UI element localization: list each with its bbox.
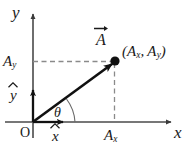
coords-x-subscript: x xyxy=(136,50,140,60)
vector-A-name: A xyxy=(96,31,106,48)
y-axis-label: y xyxy=(12,4,20,21)
vector-A-arrow xyxy=(34,64,113,122)
x-hat-glyph: x xyxy=(52,129,59,144)
vector-diagram-figure: y x O Ay Ax θ A (Ax, Ay) xyxy=(0,0,189,153)
x-axis-label: x xyxy=(174,124,182,141)
component-y-base: A xyxy=(3,53,12,69)
coords-close-paren: ) xyxy=(161,43,166,59)
vector-A-glyph: A xyxy=(96,32,106,48)
component-x-label: Ax xyxy=(104,128,118,143)
unit-vector-x-name: x xyxy=(52,128,59,144)
vector-tip-point xyxy=(110,56,119,65)
angle-theta-label: θ xyxy=(54,106,61,120)
coords-x-base: A xyxy=(127,43,136,59)
vector-A-label: A xyxy=(96,32,106,48)
unit-vector-y-name: y xyxy=(10,87,17,103)
unit-vector-y-label: y xyxy=(10,88,17,103)
coords-y-base: A xyxy=(147,43,156,59)
unit-vector-x-label: x xyxy=(52,129,59,144)
coordinate-pair-label: (Ax, Ay) xyxy=(122,44,166,59)
component-x-base: A xyxy=(104,127,113,143)
y-hat-glyph: y xyxy=(10,88,17,103)
angle-arc xyxy=(67,99,76,122)
component-y-label: Ay xyxy=(3,54,17,69)
origin-label: O xyxy=(20,126,30,140)
component-x-subscript: x xyxy=(113,134,117,144)
coords-y-subscript: y xyxy=(157,50,161,60)
component-y-subscript: y xyxy=(12,60,16,70)
